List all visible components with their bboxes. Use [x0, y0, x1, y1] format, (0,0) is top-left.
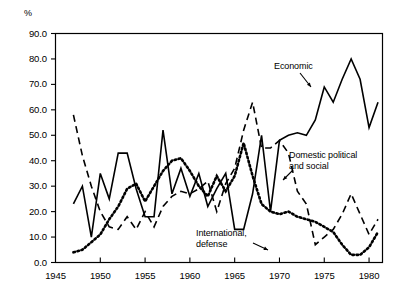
series-label-international-line2: defense: [196, 239, 258, 250]
y-axis-tick-label: 50.0: [11, 129, 47, 140]
y-axis-tick-label: 60.0: [11, 104, 47, 115]
x-axis-tick-label: 1975: [304, 270, 344, 281]
x-axis-tick-label: 1980: [349, 270, 389, 281]
series-line-economic: [73, 59, 378, 237]
series-label-domestic-political-and-social: Domestic political and social: [289, 150, 385, 171]
y-axis-tick-label: 0.0: [11, 257, 47, 268]
chart-container: % Economic Domestic political and social…: [0, 0, 395, 294]
series-label-international-line1: International,: [196, 228, 258, 239]
series-label-economic: Economic: [274, 61, 313, 72]
series-label-domestic-line2: and social: [289, 161, 385, 172]
y-axis-tick-label: 80.0: [11, 53, 47, 64]
series-label-economic-text: Economic: [274, 61, 313, 71]
x-axis-tick-label: 1955: [125, 270, 165, 281]
x-axis-tick-label: 1950: [80, 270, 120, 281]
x-axis-tick-label: 1965: [215, 270, 255, 281]
y-axis-tick-label: 20.0: [11, 206, 47, 217]
leader-arrow-economic: [300, 73, 311, 87]
y-axis-tick-label: 30.0: [11, 180, 47, 191]
x-axis-tick-label: 1960: [170, 270, 210, 281]
x-axis-tick-label: 1945: [36, 270, 76, 281]
y-axis-tick-label: 90.0: [11, 28, 47, 39]
x-axis-tick-label: 1970: [259, 270, 299, 281]
series-label-international-defense: International, defense: [196, 228, 258, 249]
y-axis-tick-label: 70.0: [11, 78, 47, 89]
y-axis-tick-label: 10.0: [11, 231, 47, 242]
leader-arrow-domestic: [283, 170, 293, 180]
series-label-domestic-line1: Domestic political: [289, 150, 385, 161]
chart-plot-svg: [0, 0, 395, 294]
y-axis-tick-label: 40.0: [11, 155, 47, 166]
